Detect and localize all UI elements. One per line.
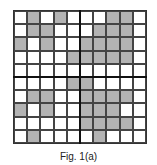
- grid-cell: [106, 24, 119, 37]
- grid-cell: [14, 11, 27, 24]
- grid-cell: [27, 77, 40, 90]
- grid-cell: [120, 117, 133, 130]
- grid-cell: [67, 77, 80, 90]
- grid-cell: [133, 130, 146, 143]
- grid-cell: [67, 11, 80, 24]
- grid-cell: [27, 24, 40, 37]
- grid-cell: [106, 77, 119, 90]
- grid-cell: [80, 37, 93, 50]
- grid-cell: [106, 117, 119, 130]
- grid-cell: [93, 103, 106, 116]
- grid-cell: [40, 24, 53, 37]
- grid-cell: [40, 77, 53, 90]
- grid-cell: [14, 37, 27, 50]
- grid-cell: [106, 64, 119, 77]
- grid-cell: [133, 117, 146, 130]
- grid-cell: [54, 117, 67, 130]
- grid-cell: [54, 77, 67, 90]
- grid-cell: [40, 117, 53, 130]
- grid-cell: [14, 90, 27, 103]
- grid-cell: [80, 117, 93, 130]
- grid-cell: [133, 64, 146, 77]
- grid-cell: [93, 11, 106, 24]
- figure-caption: Fig. 1(a): [0, 151, 157, 162]
- grid-cell: [27, 51, 40, 64]
- grid-cell: [40, 37, 53, 50]
- grid-cell: [120, 64, 133, 77]
- grid-cell: [93, 117, 106, 130]
- grid-cell: [80, 24, 93, 37]
- grid-cell: [40, 11, 53, 24]
- grid-cell: [27, 64, 40, 77]
- grid-cell: [67, 51, 80, 64]
- grid-cell: [93, 77, 106, 90]
- grid-cell: [67, 90, 80, 103]
- grid-cell: [54, 37, 67, 50]
- grid-cell: [80, 77, 93, 90]
- grid-cell: [40, 103, 53, 116]
- grid-cell: [93, 51, 106, 64]
- grid-cell: [93, 24, 106, 37]
- grid-cell: [80, 103, 93, 116]
- grid-cell: [133, 11, 146, 24]
- grid-cell: [106, 130, 119, 143]
- grid-cell: [67, 24, 80, 37]
- grid-cell: [106, 11, 119, 24]
- grid-cell: [27, 103, 40, 116]
- grid-cell: [80, 130, 93, 143]
- grid-cell: [133, 90, 146, 103]
- grid-cell: [40, 130, 53, 143]
- grid-cell: [120, 24, 133, 37]
- grid-cell: [54, 90, 67, 103]
- grid-cell: [14, 103, 27, 116]
- grid-cell: [120, 77, 133, 90]
- grid-cell: [120, 103, 133, 116]
- grid-cell: [120, 90, 133, 103]
- grid-cell: [27, 90, 40, 103]
- grid-cell: [14, 117, 27, 130]
- grid-cell: [80, 90, 93, 103]
- grid-cell: [80, 11, 93, 24]
- grid-cell: [54, 51, 67, 64]
- grid-cell: [120, 11, 133, 24]
- grid-cell: [120, 37, 133, 50]
- grid-cell: [106, 90, 119, 103]
- grid-cell: [40, 64, 53, 77]
- grid-cell: [93, 130, 106, 143]
- grid-cell: [93, 64, 106, 77]
- grid-cell: [133, 24, 146, 37]
- grid-cell: [106, 51, 119, 64]
- grid-cell: [14, 77, 27, 90]
- grid-cell: [54, 130, 67, 143]
- grid-cell: [120, 130, 133, 143]
- grid-cell: [67, 103, 80, 116]
- grid-cell: [40, 51, 53, 64]
- grid-cell: [40, 90, 53, 103]
- grid-cell: [106, 103, 119, 116]
- grid-cell: [106, 37, 119, 50]
- grid-cell: [14, 64, 27, 77]
- grid-cell: [67, 64, 80, 77]
- grid-cell: [80, 51, 93, 64]
- grid-cell: [93, 90, 106, 103]
- grid-cell: [133, 51, 146, 64]
- grid-cell: [133, 77, 146, 90]
- grid-cell: [27, 37, 40, 50]
- grid-cell: [54, 11, 67, 24]
- grid-cell: [67, 117, 80, 130]
- grid-cell: [54, 103, 67, 116]
- horizontal-center-axis: [13, 76, 147, 78]
- grid-cell: [54, 64, 67, 77]
- grid-cell: [80, 64, 93, 77]
- grid-cell: [54, 24, 67, 37]
- grid-cell: [27, 117, 40, 130]
- grid-cell: [120, 51, 133, 64]
- grid-cell: [67, 130, 80, 143]
- grid-cell: [14, 24, 27, 37]
- grid-cell: [133, 37, 146, 50]
- grid-cell: [133, 103, 146, 116]
- grid-cell: [27, 11, 40, 24]
- grid-cell: [14, 51, 27, 64]
- grid-cell: [93, 37, 106, 50]
- grid-cell: [67, 37, 80, 50]
